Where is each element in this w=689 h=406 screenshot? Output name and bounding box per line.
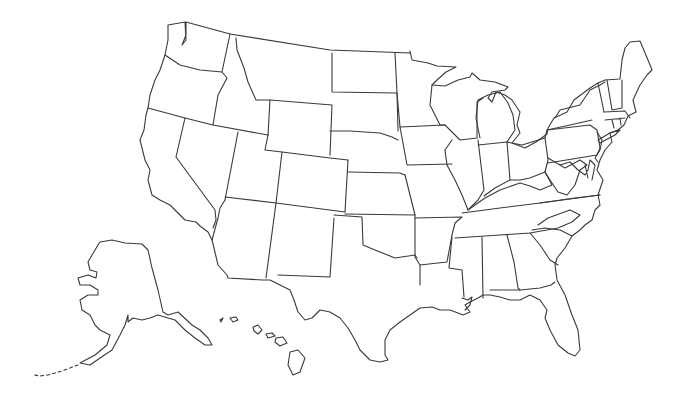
alaska-outline: [78, 240, 212, 365]
alaska-aleutians: [34, 365, 78, 376]
hawaii-islands: [220, 317, 305, 375]
us-outline-map: [0, 0, 689, 406]
